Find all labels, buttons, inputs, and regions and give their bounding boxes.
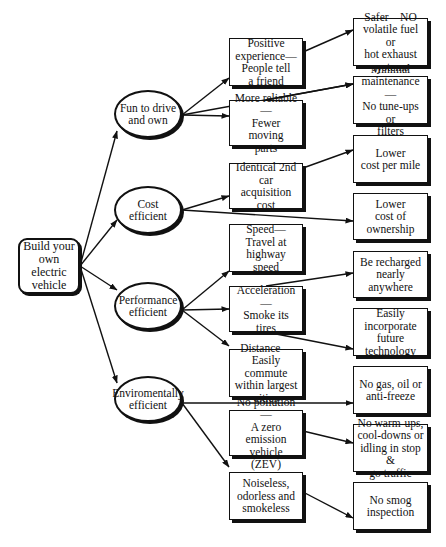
node-ownership: Lower cost of ownership: [353, 193, 428, 240]
node-nowarm: No warm-ups, cool-downs or idling in sto…: [353, 424, 428, 472]
node-cost: Cost efficient: [114, 186, 182, 234]
connector-arrow: [80, 266, 117, 383]
node-perf: Performance efficient: [114, 282, 182, 330]
connector-arrow: [182, 196, 229, 210]
connector-arrow: [182, 78, 229, 115]
connector-arrow: [80, 266, 117, 290]
connector-arrow: [80, 220, 117, 266]
node-positive: Positive experience— People tell a frien…: [229, 38, 303, 86]
ev-goal-tree-diagram: Build your own electric vehicleFun to dr…: [0, 0, 446, 547]
node-recharge: Be recharged nearly anywhere: [353, 251, 428, 298]
node-maint: Minimal maintenance— No tune-ups or filt…: [353, 76, 428, 124]
node-accel: Acceleration— Smoke its tires: [229, 286, 303, 332]
connector-arrow: [303, 30, 353, 52]
node-costmile: Lower cost per mile: [353, 135, 428, 183]
node-distance: Distance— Easily commute within largest …: [229, 349, 303, 397]
node-identical: Identical 2nd car acquisition cost: [229, 163, 303, 209]
connector-arrow: [303, 431, 353, 443]
connector-arrow: [182, 309, 229, 310]
connector-arrow: [80, 131, 117, 266]
node-future: Easily incorporate future technology: [353, 308, 428, 356]
connector-arrow: [182, 403, 229, 467]
node-nosmog: No smog inspection: [353, 482, 428, 530]
node-fun: Fun to drive and own: [114, 90, 182, 138]
node-nopollution: No pollution— A zero emission vehicle (Z…: [229, 410, 303, 456]
connector-arrow: [182, 115, 229, 116]
connector-arrow: [182, 310, 229, 346]
connector-arrow: [182, 210, 353, 221]
node-env: Enviromentally efficient: [114, 376, 182, 422]
connector-arrow: [303, 150, 353, 168]
connector-arrow: [303, 492, 353, 518]
node-speed: Speed— Travel at highway speed: [229, 224, 303, 272]
node-reliable: More reliable— Fewer moving parts: [229, 100, 303, 146]
node-nogas: No gas, oil or anti-freeze: [353, 366, 428, 414]
node-noiseless: Noiseless, odorless and smokeless: [229, 472, 303, 520]
node-safer: Safer—NO volatile fuel or hot exhaust sy…: [353, 18, 428, 66]
connector-arrow: [182, 271, 229, 310]
node-root: Build your own electric vehicle: [18, 238, 80, 294]
